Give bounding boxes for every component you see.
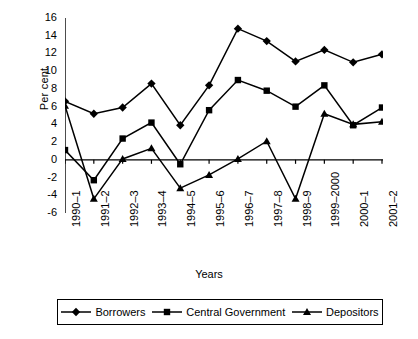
data-point-marker <box>72 308 80 316</box>
data-point-marker <box>164 309 170 315</box>
legend-item-central-government[interactable]: Central Government <box>152 305 285 319</box>
legend-label: Central Government <box>186 306 285 318</box>
x-axis-tick-label: 2001–2 <box>387 190 399 227</box>
y-axis-tick-label: -4 <box>31 188 57 200</box>
y-axis-tick-label: 14 <box>31 29 57 41</box>
y-axis-tick-label: 12 <box>31 46 57 58</box>
x-axis-tick-label: 1994–5 <box>185 190 197 227</box>
y-axis-tick-label: -6 <box>31 206 57 218</box>
data-point-marker <box>292 103 298 109</box>
data-point-marker <box>147 144 155 151</box>
y-axis-tick-label: 2 <box>31 135 57 147</box>
legend-label: Borrowers <box>95 306 145 318</box>
data-point-marker <box>379 104 383 110</box>
data-point-marker <box>205 171 213 178</box>
x-axis-title: Years <box>0 268 418 280</box>
x-axis-tick-label: 1995–6 <box>214 190 226 227</box>
y-axis-tick-label: 10 <box>31 64 57 76</box>
y-axis-tick-label: -2 <box>31 171 57 183</box>
y-axis-tick-label: 4 <box>31 117 57 129</box>
data-point-marker <box>349 58 357 66</box>
x-axis-tick-label: 1992–3 <box>128 190 140 227</box>
legend-diamond-icon <box>61 305 91 319</box>
x-axis-tick-label: 1993–4 <box>156 190 168 227</box>
data-point-marker <box>235 77 241 83</box>
data-point-marker <box>119 135 125 141</box>
data-point-marker <box>264 87 270 93</box>
data-point-marker <box>91 177 97 183</box>
data-point-marker <box>65 147 68 153</box>
x-axis-tick-label: 1997–8 <box>272 190 284 227</box>
y-axis-tick-label: 6 <box>31 100 57 112</box>
legend-label: Depositors <box>326 306 379 318</box>
x-axis-tick-label: 1990–1 <box>70 190 82 227</box>
data-point-marker <box>263 137 271 144</box>
data-point-marker <box>177 161 183 167</box>
series-line-central-government <box>65 80 382 180</box>
legend-triangle-icon <box>292 305 322 319</box>
legend-item-borrowers[interactable]: Borrowers <box>61 305 145 319</box>
chart-legend: BorrowersCentral GovernmentDepositors <box>57 299 383 325</box>
data-point-marker <box>320 46 328 54</box>
x-axis-tick-label: 1998–9 <box>301 190 313 227</box>
legend-item-depositors[interactable]: Depositors <box>292 305 379 319</box>
data-point-marker <box>234 24 242 32</box>
x-axis-tick-label: 1996–7 <box>243 190 255 227</box>
y-axis-tick-label: 16 <box>31 11 57 23</box>
data-point-marker <box>378 118 383 125</box>
data-point-marker <box>90 110 98 118</box>
x-axis-tick-label: 2000–1 <box>358 190 370 227</box>
data-point-marker <box>292 195 300 202</box>
data-point-marker <box>321 82 327 88</box>
data-point-marker <box>320 110 328 117</box>
x-axis-tick-label: 1991–2 <box>99 190 111 227</box>
series-line-borrowers <box>65 29 382 126</box>
data-point-marker <box>234 155 242 162</box>
y-axis-tick-label: 8 <box>31 82 57 94</box>
data-point-marker <box>206 107 212 113</box>
y-axis-tick-label: 0 <box>31 153 57 165</box>
chart-figure: Per cent 1614121086420-2-4-6 1990–11991–… <box>0 0 418 339</box>
x-axis-tick-label: 1999–2000 <box>329 172 341 227</box>
legend-square-icon <box>152 305 182 319</box>
data-point-marker <box>148 119 154 125</box>
data-point-marker <box>378 50 383 58</box>
